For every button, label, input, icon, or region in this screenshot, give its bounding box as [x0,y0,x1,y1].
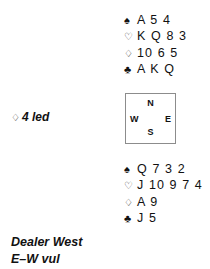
compass-label-north: N [126,99,175,108]
north-diamond-row: ♢ 10 6 5 [124,45,187,61]
spade-icon: ♠ [124,12,137,28]
north-heart-cards: K Q 8 3 [137,28,187,44]
north-hand: ♠ A 5 4 ♡ K Q 8 3 ♢ 10 6 5 ♣ A K Q [124,12,187,78]
diamond-icon: ♢ [11,112,20,123]
club-icon: ♣ [124,61,137,77]
dealer-text: Dealer West [11,234,82,251]
south-spade-cards: Q 7 3 2 [137,161,186,177]
north-spade-row: ♠ A 5 4 [124,12,187,28]
compass-label-east: E [165,114,171,123]
north-diamond-cards: 10 6 5 [137,45,178,61]
north-heart-row: ♡ K Q 8 3 [124,28,187,44]
spade-icon: ♠ [124,161,137,177]
compass-box: N W E S [125,93,176,144]
south-diamond-cards: A 9 [137,194,158,210]
south-diamond-row: ♢ A 9 [124,194,203,210]
vulnerability-text: E–W vul [11,251,82,268]
north-club-row: ♣ A K Q [124,61,187,77]
south-heart-cards: J 10 9 7 4 [137,177,203,193]
south-spade-row: ♠ Q 7 3 2 [124,161,203,177]
heart-icon: ♡ [124,178,137,194]
south-club-row: ♣ J 5 [124,210,203,226]
north-club-cards: A K Q [137,61,175,77]
south-heart-row: ♡ J 10 9 7 4 [124,177,203,193]
compass-label-west: W [130,114,139,123]
opening-lead-note: ♢ 4 led [11,110,49,124]
diamond-icon: ♢ [124,195,137,211]
opening-lead-text: 4 led [22,110,49,124]
diamond-icon: ♢ [124,46,137,62]
north-spade-cards: A 5 4 [137,12,171,28]
compass-label-south: S [126,128,175,137]
club-icon: ♣ [124,210,137,226]
deal-caption: Dealer West E–W vul [11,234,82,268]
south-hand: ♠ Q 7 3 2 ♡ J 10 9 7 4 ♢ A 9 ♣ J 5 [124,161,203,227]
south-club-cards: J 5 [137,210,157,226]
heart-icon: ♡ [124,29,137,45]
